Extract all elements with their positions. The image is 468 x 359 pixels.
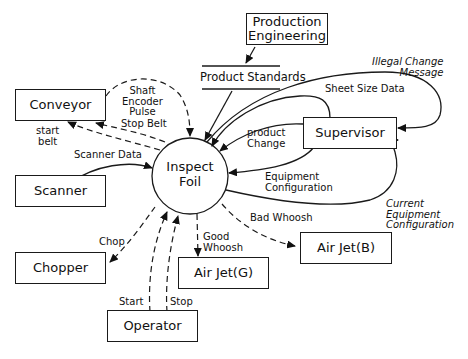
flow-label-stop: Stop <box>170 297 193 308</box>
entity-supervisor: Supervisor <box>303 117 397 149</box>
entity-production-engineering: Production Engineering <box>246 13 328 45</box>
entity-chopper: Chopper <box>15 252 106 284</box>
process-label: Foil <box>160 175 220 190</box>
flow-label-stop-belt: Stop Belt <box>121 119 167 130</box>
flow-label-sheet-size-data: Sheet Size Data <box>325 84 405 95</box>
entity-label: Supervisor <box>315 126 384 140</box>
flow-label-start-belt: start belt <box>36 126 59 147</box>
entity-label: Engineering <box>248 29 326 43</box>
entity-airjet-g: Air Jet(G) <box>178 257 269 289</box>
flow-label-good-whoosh: Good Whoosh <box>203 232 243 253</box>
flow-label-chop: Chop <box>99 237 125 248</box>
flow-label-start: Start <box>119 297 143 308</box>
entity-label: Scanner <box>34 184 87 198</box>
flow-label-equipment-configuration: Equipment Configuration <box>265 172 333 193</box>
data-store-product-standards: Product Standards <box>200 70 306 84</box>
entity-airjet-b: Air Jet(B) <box>300 232 392 264</box>
flow-label-bad-whoosh: Bad Whoosh <box>250 213 313 224</box>
flow-label-scanner-data: Scanner Data <box>74 150 142 161</box>
flow-label-shaft-encoder-pulse: Shaft Encoder Pulse <box>122 86 163 118</box>
entity-label: Conveyor <box>30 98 92 112</box>
flow-label-product-change: product Change <box>247 128 285 149</box>
process-inspect-foil: Inspect Foil <box>160 160 220 190</box>
flow-label-current-equipment-configuration: Current Equipment Configuration <box>386 199 454 231</box>
entity-label: Air Jet(G) <box>194 266 253 280</box>
entity-conveyor: Conveyor <box>15 89 106 121</box>
entity-scanner: Scanner <box>15 175 106 207</box>
flow-label-illegal-change-message: Illegal Change Message <box>372 57 443 78</box>
entity-label: Air Jet(B) <box>317 241 375 255</box>
entity-label: Operator <box>123 319 181 333</box>
entity-operator: Operator <box>107 310 198 342</box>
entity-label: Production <box>252 15 321 29</box>
entity-label: Chopper <box>33 261 88 275</box>
process-label: Inspect <box>160 160 220 175</box>
